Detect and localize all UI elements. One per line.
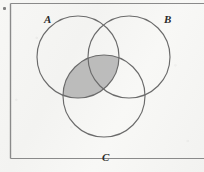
set-label-b: B <box>164 14 171 25</box>
venn-diagram-canvas <box>0 0 204 172</box>
set-label-c: C <box>102 152 109 163</box>
venn-diagram-figure: A B C <box>0 0 204 172</box>
set-label-a: A <box>44 14 51 25</box>
